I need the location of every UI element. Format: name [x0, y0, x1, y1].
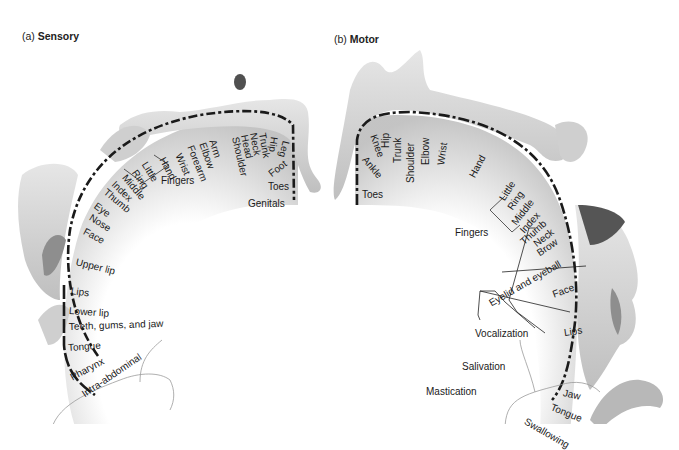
motor-tongue-figure: [590, 380, 663, 424]
sensory-region-toes: Toes: [268, 182, 289, 192]
motor-function-salivation: Salivation: [462, 362, 505, 372]
motor-region-elbow: Elbow: [421, 138, 431, 165]
motor-region-shoulder: Shoulder: [406, 143, 416, 183]
sensory-head-figure: [234, 74, 246, 90]
motor-region-hip: Hip: [381, 133, 391, 148]
motor-region-trunk: Trunk: [393, 138, 403, 163]
motor-region-toes: Toes: [362, 190, 383, 200]
sensory-fingers-label: Fingers: [161, 176, 194, 186]
motor-function-mastication: Mastication: [426, 387, 477, 397]
motor-function-vocalization: Vocalization: [475, 329, 528, 339]
motor-fingers-label: Fingers: [455, 228, 488, 238]
brain-outline: [50, 340, 600, 424]
sensory-cortex: [18, 74, 321, 424]
sensory-region-genitals: Genitals: [248, 199, 285, 209]
